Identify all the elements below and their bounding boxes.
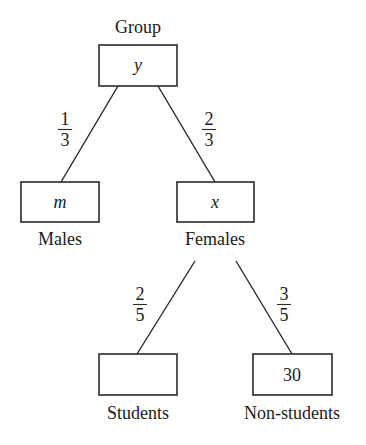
root-node: Group y [99,17,177,86]
females-label: Females [185,229,245,249]
nonstudents-node: 30 Non-students [244,354,340,423]
nonstudents-label: Non-students [244,403,340,423]
edge-root-males [61,86,118,182]
fraction-females: 2 3 [202,109,216,150]
tree-diagram: Group y 1 3 2 3 m Males x Females 2 5 3 [0,0,366,445]
fraction-numerator: 2 [136,284,145,304]
edge-females-students [137,261,195,354]
fraction-nonstudents: 3 5 [277,284,291,325]
females-value: x [210,192,219,212]
root-label: Group [115,17,161,37]
fraction-students: 2 5 [133,284,147,325]
fraction-denominator: 5 [136,305,145,325]
students-label: Students [107,403,169,423]
fraction-denominator: 3 [61,130,70,150]
students-box [99,354,177,395]
males-label: Males [38,229,82,249]
males-node: m Males [21,182,99,249]
fraction-numerator: 3 [280,284,289,304]
fraction-denominator: 3 [205,130,214,150]
students-node: Students [99,354,177,423]
nonstudents-value: 30 [283,365,301,385]
fraction-denominator: 5 [280,305,289,325]
fraction-numerator: 2 [205,109,214,129]
fraction-numerator: 1 [61,109,70,129]
males-value: m [54,192,67,212]
fraction-males: 1 3 [58,109,72,150]
root-value: y [132,55,142,75]
females-node: x Females [177,182,254,249]
